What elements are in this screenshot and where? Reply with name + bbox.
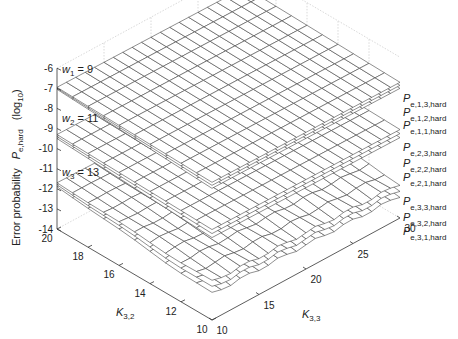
z-tick bbox=[57, 209, 61, 211]
k32-tick bbox=[119, 263, 123, 265]
k32-tick bbox=[212, 318, 216, 320]
z-tick-label: -12 bbox=[39, 183, 54, 194]
surface-label: Pe,3,3,hard bbox=[403, 195, 446, 212]
z-tick-label: -9 bbox=[44, 123, 53, 134]
k33-tick-label: 10 bbox=[216, 325, 228, 336]
k32-tick-label: 20 bbox=[41, 233, 53, 244]
z-axis-title: Error probability Pe,hard (log10) bbox=[10, 89, 25, 246]
z-tick bbox=[57, 149, 61, 151]
k33-tick-label: 20 bbox=[310, 274, 322, 285]
z-tick-label: -13 bbox=[39, 203, 54, 214]
z-tick bbox=[57, 68, 61, 70]
k32-tick bbox=[150, 282, 154, 284]
k33-tick bbox=[350, 242, 353, 244]
k32-tick bbox=[181, 300, 185, 302]
z-tick bbox=[57, 169, 61, 171]
k33-tick bbox=[209, 318, 212, 320]
surface-label: Pe,2,3,hard bbox=[403, 141, 446, 158]
k32-tick-label: 14 bbox=[134, 288, 146, 299]
k33-tick bbox=[303, 267, 306, 269]
k33-tick-label: 15 bbox=[263, 300, 275, 311]
y-axis-title: K3,2 bbox=[116, 306, 135, 321]
z-tick-label: -7 bbox=[44, 83, 53, 94]
k32-tick-label: 12 bbox=[165, 306, 177, 317]
k32-tick-label: 10 bbox=[196, 324, 208, 335]
z-tick-label: -6 bbox=[44, 63, 53, 74]
k32-tick bbox=[57, 227, 61, 229]
k32-tick bbox=[88, 245, 92, 247]
z-tick bbox=[57, 108, 61, 110]
k32-tick-label: 18 bbox=[72, 251, 84, 262]
x-axis-title: K3,3 bbox=[302, 308, 321, 323]
z-tick bbox=[57, 229, 61, 231]
z-tick-label: -10 bbox=[39, 143, 54, 154]
k33-tick-label: 25 bbox=[357, 249, 369, 260]
k33-tick bbox=[256, 293, 259, 295]
k33-tick bbox=[397, 216, 400, 218]
surfaces bbox=[57, 0, 400, 292]
z-tick-label: -11 bbox=[39, 163, 53, 174]
k32-tick-label: 16 bbox=[103, 269, 115, 280]
z-tick-label: -8 bbox=[44, 103, 53, 114]
surface-plot: Error probability Pe,hard (log10) K3,2 K… bbox=[0, 0, 458, 339]
z-tick bbox=[57, 129, 61, 131]
